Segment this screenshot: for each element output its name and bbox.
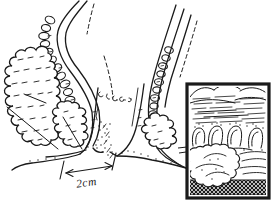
scale-tick-left (60, 161, 64, 179)
sphincter-lower-end-left (52, 101, 88, 147)
anal-canal-lumen (80, 84, 144, 156)
main-cross-section (4, 1, 197, 170)
figure: 2cm (0, 0, 280, 208)
scale-label: 2cm (75, 175, 97, 190)
dentate-line-marks (96, 92, 131, 120)
sphincter-lower-end-right (141, 113, 180, 165)
anatomy-illustration: 2cm (0, 0, 280, 208)
magnified-inset (178, 84, 269, 198)
external-sphincter-left (4, 46, 61, 145)
scale-annotation: 2cm (60, 153, 116, 190)
scale-tick-right (112, 153, 116, 170)
